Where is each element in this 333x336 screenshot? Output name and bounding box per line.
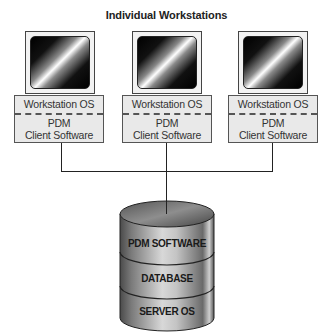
database-cylinder-icon	[0, 0, 333, 336]
server-layer-server-os: SERVER OS	[120, 306, 214, 317]
server-layer-pdm-software: PDM SOFTWARE	[120, 238, 214, 249]
server-layer-database: DATABASE	[120, 273, 214, 284]
